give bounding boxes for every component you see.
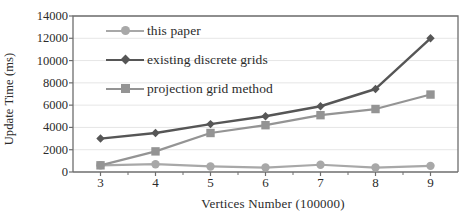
legend-label: projection grid method bbox=[147, 81, 273, 97]
x-axis-tick-label: 9 bbox=[427, 176, 434, 190]
x-axis-title: Vertices Number (100000) bbox=[78, 196, 468, 212]
legend-swatch-projection-grid-method bbox=[106, 82, 144, 96]
x-axis-tick-label: 8 bbox=[372, 176, 379, 190]
x-axis-tick-labels: 3456789 bbox=[0, 176, 475, 196]
data-point-marker bbox=[371, 105, 379, 113]
square-marker-icon bbox=[121, 84, 130, 93]
legend-item-this-paper: this paper bbox=[106, 18, 356, 43]
legend-swatch-this-paper bbox=[106, 24, 144, 38]
x-axis-tick-label: 5 bbox=[207, 176, 214, 190]
legend-item-existing-discrete-grids: existing discrete grids bbox=[106, 47, 356, 72]
data-point-marker bbox=[151, 147, 159, 155]
legend-swatch-existing-discrete-grids bbox=[106, 53, 144, 67]
data-point-marker bbox=[261, 112, 269, 120]
chart-legend: this paper existing discrete grids proje… bbox=[106, 18, 356, 105]
data-point-marker bbox=[316, 161, 324, 169]
data-point-marker bbox=[151, 160, 159, 168]
legend-label: this paper bbox=[147, 23, 201, 39]
x-axis-tick-label: 7 bbox=[317, 176, 324, 190]
data-point-marker bbox=[261, 121, 269, 129]
data-point-marker bbox=[426, 90, 434, 98]
diamond-marker-icon bbox=[120, 55, 130, 65]
circle-marker-icon bbox=[121, 26, 130, 35]
data-point-marker bbox=[206, 129, 214, 137]
data-point-marker bbox=[316, 111, 324, 119]
data-point-marker bbox=[151, 129, 159, 137]
x-axis-tick-label: 4 bbox=[152, 176, 159, 190]
chart-container: Update Time (ms) 02000400060008000100001… bbox=[0, 0, 475, 218]
data-point-marker bbox=[426, 162, 434, 170]
data-point-marker bbox=[96, 161, 104, 169]
data-point-marker bbox=[96, 134, 104, 142]
data-point-marker bbox=[261, 163, 269, 171]
legend-item-projection-grid-method: projection grid method bbox=[106, 76, 356, 101]
legend-label: existing discrete grids bbox=[147, 52, 268, 68]
x-axis-tick-label: 3 bbox=[97, 176, 104, 190]
data-point-marker bbox=[206, 162, 214, 170]
data-point-marker bbox=[371, 163, 379, 171]
x-axis-tick-label: 6 bbox=[262, 176, 269, 190]
